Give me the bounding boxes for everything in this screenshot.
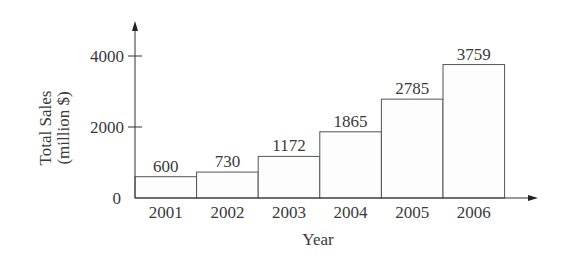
y-axis-title-line-2: (million $): [54, 91, 73, 164]
value-label: 3759: [457, 45, 491, 64]
value-label: 1172: [272, 136, 305, 155]
x-tick-labels-group: 200120022003200420052006: [149, 203, 491, 222]
y-tick-label: 4000: [90, 47, 124, 66]
bar-2006: [443, 65, 505, 198]
bar-2002: [197, 172, 259, 198]
y-ticks-group: 020004000: [90, 47, 142, 208]
x-tick-label: 2006: [457, 203, 491, 222]
y-axis-title: Total Sales (million $): [36, 91, 73, 166]
x-tick-label: 2002: [210, 203, 244, 222]
value-label: 600: [153, 157, 179, 176]
sales-bar-chart: 020004000 200120022003200420052006 60073…: [0, 0, 563, 262]
x-tick-label: 2004: [334, 203, 369, 222]
y-tick-label: 2000: [90, 118, 124, 137]
x-axis-arrow-icon: [528, 195, 538, 201]
bar-2005: [381, 99, 443, 198]
bar-2004: [320, 132, 382, 198]
y-axis-title-line-1: Total Sales: [36, 91, 55, 166]
bar-2001: [135, 177, 197, 198]
x-tick-label: 2003: [272, 203, 306, 222]
value-label: 2785: [395, 79, 429, 98]
bar-2003: [258, 156, 320, 198]
x-axis-title: Year: [302, 230, 334, 249]
bars-group: [135, 65, 505, 198]
value-label: 730: [215, 152, 241, 171]
x-tick-label: 2005: [395, 203, 429, 222]
value-label: 1865: [334, 112, 368, 131]
y-tick-label: 0: [113, 189, 122, 208]
y-axis-arrow-icon: [132, 21, 138, 31]
x-tick-label: 2001: [149, 203, 183, 222]
